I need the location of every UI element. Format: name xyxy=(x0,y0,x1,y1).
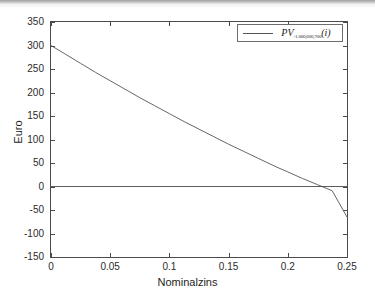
legend-base: PV xyxy=(281,27,293,38)
y-tick-label: 350 xyxy=(0,17,44,27)
y-tick-mark xyxy=(51,257,55,258)
y-tick-mark xyxy=(51,69,55,70)
x-tick-label: 0.2 xyxy=(281,262,295,272)
x-tick-label: 0.15 xyxy=(219,262,238,272)
y-tick-label: 300 xyxy=(0,41,44,51)
x-axis-title: Nominalzins xyxy=(0,276,375,288)
y-tick-mark xyxy=(51,46,55,47)
x-tick-mark xyxy=(51,253,52,257)
scan-artifact-band-soft xyxy=(0,5,375,8)
y-tick-mark xyxy=(51,210,55,211)
x-tick-mark xyxy=(288,253,289,257)
legend-entry-label: PV-1.000,600,700(i) xyxy=(273,27,342,39)
x-tick-label: 0 xyxy=(48,262,54,272)
data-curves xyxy=(51,22,347,257)
y-tick-label: 0 xyxy=(0,182,44,192)
x-tick-label: 0.25 xyxy=(337,262,356,272)
y-tick-label: -150 xyxy=(0,252,44,262)
x-tick-mark-top xyxy=(51,22,52,26)
x-tick-label: 0.1 xyxy=(162,262,176,272)
y-tick-label: -50 xyxy=(0,205,44,215)
y-tick-mark-right xyxy=(343,93,347,94)
y-tick-label: 250 xyxy=(0,64,44,74)
y-tick-mark-right xyxy=(343,163,347,164)
y-tick-mark-right xyxy=(343,46,347,47)
y-tick-mark xyxy=(51,163,55,164)
series-line xyxy=(51,46,347,218)
y-tick-mark-right xyxy=(343,116,347,117)
y-tick-mark xyxy=(51,93,55,94)
x-tick-mark-top xyxy=(169,22,170,26)
plot-axes xyxy=(50,21,348,258)
x-tick-mark-top xyxy=(110,22,111,26)
y-tick-mark xyxy=(51,140,55,141)
y-tick-mark-right xyxy=(343,140,347,141)
legend-subscript: -1.000,600,700 xyxy=(294,34,322,39)
y-tick-mark-right xyxy=(343,187,347,188)
y-tick-label: 200 xyxy=(0,88,44,98)
x-tick-mark xyxy=(347,253,348,257)
y-tick-mark xyxy=(51,187,55,188)
y-axis-title: Euro xyxy=(12,102,24,162)
y-tick-mark xyxy=(51,234,55,235)
x-tick-mark xyxy=(110,253,111,257)
legend-argument: (i) xyxy=(321,27,330,38)
x-tick-label: 0.05 xyxy=(100,262,119,272)
x-tick-mark-top xyxy=(347,22,348,26)
y-tick-mark-right xyxy=(343,234,347,235)
y-tick-label: -100 xyxy=(0,229,44,239)
x-tick-mark-top xyxy=(229,22,230,26)
plot-area xyxy=(51,22,347,257)
y-tick-mark-right xyxy=(343,69,347,70)
chart-page: 350300250200150100500-50-100-150 00.050.… xyxy=(0,0,375,299)
x-tick-mark xyxy=(169,253,170,257)
y-tick-mark xyxy=(51,116,55,117)
y-tick-mark-right xyxy=(343,257,347,258)
y-tick-mark-right xyxy=(343,210,347,211)
legend-box: PV-1.000,600,700(i) xyxy=(237,24,343,42)
x-tick-mark xyxy=(229,253,230,257)
legend-line-sample xyxy=(243,33,273,34)
